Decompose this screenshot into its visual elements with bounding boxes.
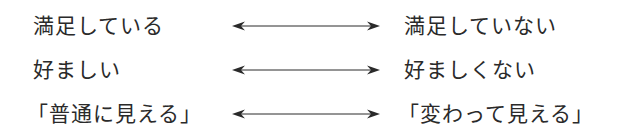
double-arrow-icon: [230, 108, 382, 120]
left-term: 「普通に見える」: [27, 97, 202, 131]
left-term: 好ましい: [33, 53, 121, 87]
scale-row-preference: 好ましい 好ましくない: [0, 53, 639, 87]
right-term: 好ましくない: [404, 53, 536, 87]
right-term: 満足していない: [404, 9, 557, 43]
scale-row-appearance: 「普通に見える」 「変わって見える」: [0, 97, 639, 131]
scale-row-satisfaction: 満足している 満足していない: [0, 9, 639, 43]
left-term: 満足している: [33, 9, 164, 43]
double-arrow-icon: [230, 64, 382, 76]
right-term: 「変わって見える」: [398, 97, 594, 131]
double-arrow-icon: [230, 20, 382, 32]
